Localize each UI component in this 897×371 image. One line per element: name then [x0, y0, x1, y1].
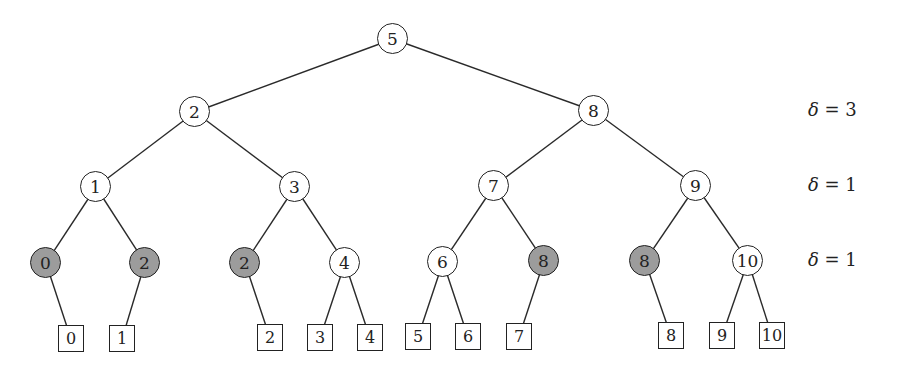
- tree-node: 5: [377, 23, 408, 54]
- shaded-tree-node: 0: [30, 247, 61, 278]
- tree-edge: [393, 39, 594, 111]
- leaf-node: 7: [506, 323, 532, 350]
- delta-value: = 1: [819, 174, 857, 195]
- tree-edge: [494, 111, 594, 186]
- tree-node: 3: [279, 171, 310, 202]
- tree-node: 2: [179, 96, 210, 127]
- leaf-node: 5: [405, 323, 431, 350]
- tree-edge: [594, 111, 696, 186]
- tree-node: 8: [578, 95, 609, 126]
- shaded-tree-node: 2: [229, 247, 260, 278]
- tree-edge: [195, 39, 393, 112]
- leaf-node: 8: [658, 322, 684, 349]
- delta-symbol: δ: [808, 249, 819, 270]
- tree-node: 6: [427, 246, 458, 277]
- delta-symbol: δ: [808, 174, 819, 195]
- leaf-node: 4: [357, 324, 383, 351]
- tree-node: 4: [329, 247, 360, 278]
- leaf-node: 2: [257, 324, 283, 351]
- tree-node: 1: [80, 171, 111, 202]
- delta-value: = 3: [819, 99, 857, 120]
- tree-edge: [96, 112, 195, 187]
- tree-diagram: 5281379022468810012345678910 δ = 3δ = 1δ…: [0, 0, 897, 371]
- shaded-tree-node: 8: [629, 245, 660, 276]
- tree-node: 7: [478, 170, 509, 201]
- leaf-node: 6: [455, 323, 481, 350]
- tree-edges: [0, 0, 897, 371]
- delta-label: δ = 1: [808, 174, 857, 195]
- delta-label: δ = 3: [808, 99, 857, 120]
- shaded-tree-node: 8: [528, 245, 559, 276]
- delta-label: δ = 1: [808, 249, 857, 270]
- tree-node: 10: [732, 245, 763, 276]
- delta-symbol: δ: [808, 99, 819, 120]
- tree-node: 9: [680, 170, 711, 201]
- leaf-node: 3: [307, 324, 333, 351]
- delta-value: = 1: [819, 249, 857, 270]
- shaded-tree-node: 2: [129, 247, 160, 278]
- leaf-node: 1: [109, 325, 135, 352]
- leaf-node: 10: [759, 322, 785, 349]
- leaf-node: 0: [58, 325, 84, 352]
- tree-edge: [195, 112, 295, 187]
- leaf-node: 9: [709, 322, 735, 349]
